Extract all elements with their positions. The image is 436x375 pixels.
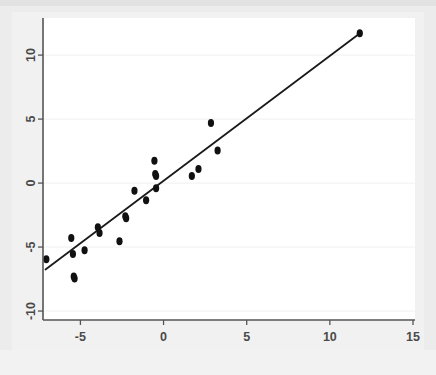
x-tick-label: -5 [75, 330, 86, 344]
data-point [43, 255, 49, 263]
y-tick-label: 5 [24, 116, 38, 123]
x-axis-tick-labels: -5051015 [75, 330, 420, 344]
gridlines [43, 55, 415, 311]
data-point [151, 157, 157, 165]
y-tick-label: 10 [24, 48, 38, 62]
data-point [116, 237, 122, 245]
fitted-regression-line [45, 33, 360, 270]
data-point [68, 234, 74, 242]
x-tick-label: 0 [160, 330, 167, 344]
scatter-chart: -5051015 -10-50510 [0, 0, 436, 375]
data-point [153, 184, 159, 192]
data-point [153, 172, 159, 180]
y-axis-tick-labels: -10-50510 [24, 48, 38, 320]
x-tick-label: 5 [243, 330, 250, 344]
data-point [357, 29, 363, 37]
y-tick-label: -5 [24, 241, 38, 252]
data-point [123, 214, 129, 222]
x-tick-label: 10 [323, 330, 337, 344]
data-point [71, 274, 77, 282]
data-point [195, 165, 201, 173]
data-point [215, 146, 221, 154]
data-point [143, 196, 149, 204]
regression-line [45, 33, 360, 270]
data-point [208, 119, 214, 127]
data-point [81, 246, 87, 254]
y-tick-label: -10 [24, 302, 38, 320]
data-point [96, 229, 102, 237]
axis-lines [43, 18, 415, 320]
chart-screenshot: -5051015 -10-50510 [0, 0, 436, 375]
x-tick-label: 15 [406, 330, 420, 344]
data-point [189, 172, 195, 180]
data-point [131, 187, 137, 195]
y-tick-label: 0 [24, 180, 38, 187]
data-point [70, 250, 76, 258]
